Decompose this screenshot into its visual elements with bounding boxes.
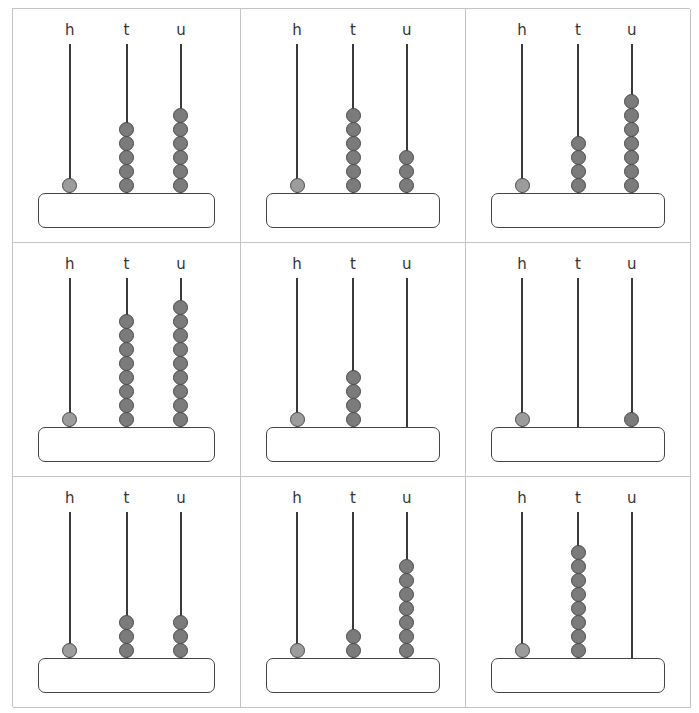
abacus-panel: htu (466, 243, 691, 477)
bead-icon (173, 328, 188, 343)
bead-icon (119, 150, 134, 165)
bead-icon (515, 178, 530, 193)
abacus-rod-t (577, 278, 579, 428)
bead-icon (346, 398, 361, 413)
bead-stack-h (514, 644, 530, 658)
bead-icon (119, 643, 134, 658)
rod-label-u: u (397, 255, 417, 273)
answer-box[interactable] (491, 193, 665, 228)
bead-icon (399, 587, 414, 602)
bead-icon (119, 136, 134, 151)
bead-icon (571, 629, 586, 644)
bead-stack-h (62, 413, 78, 427)
rod-label-u: u (397, 489, 417, 507)
rod-label-t: t (343, 255, 363, 273)
bead-stack-u (624, 413, 640, 427)
bead-stack-t (345, 109, 361, 193)
bead-icon (399, 629, 414, 644)
rod-label-u: u (622, 489, 642, 507)
bead-icon (571, 587, 586, 602)
answer-box[interactable] (491, 658, 665, 693)
bead-icon (173, 398, 188, 413)
bead-icon (571, 559, 586, 574)
abacus-rod-h (69, 512, 71, 662)
bead-icon (173, 150, 188, 165)
bead-icon (62, 412, 77, 427)
bead-stack-t (570, 546, 586, 658)
answer-box[interactable] (491, 427, 665, 462)
bead-icon (399, 150, 414, 165)
bead-stack-h (62, 179, 78, 193)
abacus-panel: htu (466, 9, 691, 243)
bead-stack-h (62, 644, 78, 658)
abacus-panel: htu (466, 477, 691, 708)
bead-icon (515, 643, 530, 658)
bead-icon (173, 178, 188, 193)
rod-label-h: h (512, 255, 532, 273)
rod-label-t: t (568, 489, 588, 507)
bead-icon (346, 629, 361, 644)
rod-label-t: t (343, 21, 363, 39)
rod-label-t: t (568, 255, 588, 273)
bead-icon (571, 178, 586, 193)
bead-icon (173, 342, 188, 357)
bead-icon (173, 314, 188, 329)
bead-icon (571, 615, 586, 630)
abacus-panel: htu (241, 9, 466, 243)
answer-box[interactable] (38, 193, 215, 228)
bead-icon (119, 629, 134, 644)
rod-label-t: t (117, 21, 137, 39)
bead-icon (119, 328, 134, 343)
answer-box[interactable] (266, 427, 440, 462)
bead-icon (173, 136, 188, 151)
bead-icon (346, 122, 361, 137)
bead-icon (119, 398, 134, 413)
abacus-panel: htu (13, 9, 241, 243)
bead-icon (571, 136, 586, 151)
bead-stack-u (173, 301, 189, 427)
bead-icon (399, 164, 414, 179)
abacus-rod-h (69, 44, 71, 194)
bead-stack-h (289, 179, 305, 193)
bead-icon (624, 136, 639, 151)
bead-stack-u (399, 151, 415, 193)
bead-icon (173, 356, 188, 371)
bead-icon (624, 150, 639, 165)
answer-box[interactable] (38, 427, 215, 462)
bead-icon (173, 629, 188, 644)
rod-label-h: h (60, 21, 80, 39)
bead-icon (173, 108, 188, 123)
bead-stack-h (289, 413, 305, 427)
answer-box[interactable] (266, 658, 440, 693)
bead-icon (173, 643, 188, 658)
abacus-rod-u (631, 512, 633, 662)
bead-icon (119, 164, 134, 179)
bead-stack-t (570, 137, 586, 193)
rod-label-u: u (171, 255, 191, 273)
abacus-panel: htu (241, 477, 466, 708)
bead-stack-h (289, 644, 305, 658)
rod-label-u: u (622, 21, 642, 39)
bead-icon (173, 615, 188, 630)
bead-icon (624, 164, 639, 179)
bead-stack-h (514, 413, 530, 427)
bead-icon (119, 356, 134, 371)
rod-label-h: h (60, 489, 80, 507)
rod-label-h: h (512, 489, 532, 507)
bead-icon (346, 384, 361, 399)
rod-label-t: t (117, 255, 137, 273)
bead-icon (571, 573, 586, 588)
bead-icon (346, 164, 361, 179)
rod-label-u: u (397, 21, 417, 39)
abacus-panel: htu (241, 243, 466, 477)
rod-label-u: u (622, 255, 642, 273)
abacus-panel: htu (13, 243, 241, 477)
answer-box[interactable] (38, 658, 215, 693)
bead-icon (119, 412, 134, 427)
bead-icon (119, 178, 134, 193)
bead-icon (399, 601, 414, 616)
bead-icon (571, 601, 586, 616)
answer-box[interactable] (266, 193, 440, 228)
bead-icon (399, 559, 414, 574)
bead-icon (62, 643, 77, 658)
